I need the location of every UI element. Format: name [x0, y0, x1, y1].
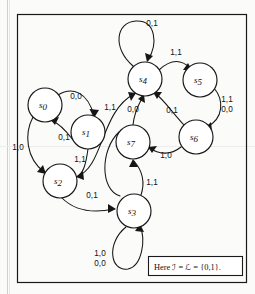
state-node-s4[interactable]: s4 [128, 62, 162, 96]
edge-label-s1-s2: 1,1 [74, 155, 86, 164]
edge-label-s0-s2: 1,0 [12, 143, 24, 152]
edge-s0-s2 [28, 117, 44, 172]
edge-label-s5-s6-2: 0,0 [221, 105, 233, 114]
edge-label-s4-s5: 1,1 [170, 48, 182, 57]
arrowhead-s2-s3 [108, 204, 116, 213]
edge-label-s5-s6-1: 1,1 [221, 95, 233, 104]
caption-label: Here ℐ = ℒ = {0,1}. [154, 263, 221, 272]
edge-label-s7-s4: 0,0 [127, 105, 139, 114]
arrowhead-s3-s7 [129, 159, 138, 167]
edge-label-s1-s0: 0,1 [58, 133, 70, 142]
state-node-s3[interactable]: s3 [117, 194, 151, 228]
edge-s3-self-loop [113, 226, 143, 269]
state-node-s6[interactable]: s6 [179, 120, 213, 154]
state-node-s5[interactable]: s5 [183, 63, 217, 97]
edge-label-s0-s1: 0,0 [70, 92, 82, 101]
edge-label-s4-loop: 0,1 [146, 19, 158, 28]
edge-label-s2-s3: 0,1 [86, 191, 98, 200]
figure-root: s0 s1 s2 s3 s4 [0, 0, 255, 294]
state-node-s2[interactable]: s2 [43, 164, 77, 198]
edge-label-s2-s4: 1,1 [104, 103, 116, 112]
edge-label-s6-s4: 0,1 [166, 106, 178, 115]
state-diagram: s0 s1 s2 s3 s4 [0, 0, 255, 294]
arrowhead-s4-self-loop [145, 53, 153, 62]
state-node-s1[interactable]: s1 [71, 115, 105, 149]
state-node-s7[interactable]: s7 [116, 125, 150, 159]
edge-label-s3-loop-1: 1,0 [94, 249, 106, 258]
edge-label-s6-s7: 1,0 [160, 151, 172, 160]
edge-label-s3-s7: 1,1 [146, 178, 158, 187]
edge-label-s3-loop-2: 0,0 [94, 259, 106, 268]
state-node-s0[interactable]: s0 [28, 88, 62, 122]
